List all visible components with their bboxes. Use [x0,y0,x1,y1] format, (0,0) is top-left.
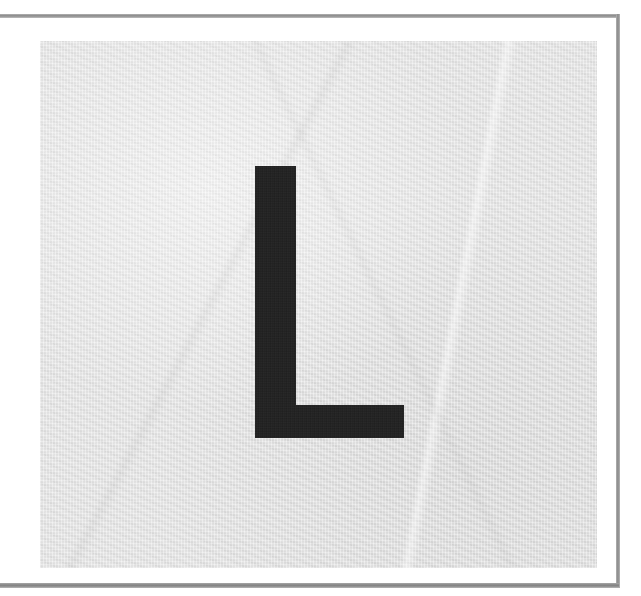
letter-l-foot [255,405,404,438]
photo-plate [40,41,597,568]
letter-l-glyph [255,166,404,438]
page-canvas [0,0,641,596]
right-rule [616,14,620,588]
top-rule [0,14,619,18]
letter-l-stem [255,166,296,438]
bottom-rule [0,583,619,588]
